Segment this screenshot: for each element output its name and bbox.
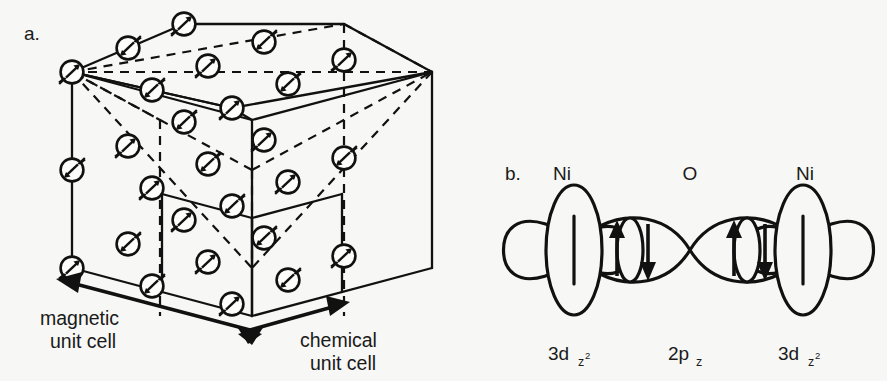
electron-pair-left xyxy=(609,218,656,282)
chemical-label-line1: chemical xyxy=(300,329,377,351)
magnetic-label-line2: unit cell xyxy=(50,330,116,352)
spin-marker-down xyxy=(221,194,245,217)
spin-marker-down xyxy=(197,152,221,175)
chemical-unit-cell-label: chemical unit cell xyxy=(300,329,377,374)
atom-label-o: O xyxy=(683,163,698,184)
spin-marker-up xyxy=(115,135,139,158)
orbital-label-right-main: 3d xyxy=(778,343,799,364)
orbital-label-left-sub: z xyxy=(578,355,584,369)
figure-root: a. xyxy=(0,0,887,381)
spin-marker-up xyxy=(275,171,299,194)
panel-a-letter: a. xyxy=(24,23,40,44)
spin-marker-up xyxy=(139,177,163,200)
spin-marker-down xyxy=(333,146,357,169)
orbital-label-right-sub: z xyxy=(808,355,814,369)
spin-marker-up xyxy=(195,251,219,274)
spin-marker-up xyxy=(171,13,195,36)
spin-marker-up xyxy=(331,245,355,268)
spin-marker-down xyxy=(61,158,85,181)
spin-marker-down xyxy=(117,232,141,255)
chemical-label-line2: unit cell xyxy=(310,352,376,374)
spin-marker-down xyxy=(253,30,277,53)
spin-marker-up xyxy=(331,49,355,72)
orbital-label-right-sub2: 2 xyxy=(815,350,820,361)
electron-pair-right xyxy=(726,218,773,282)
spin-marker-down xyxy=(141,78,165,101)
orbital-label-center-main: 2p xyxy=(668,343,689,364)
orbital-label-left-main: 3d xyxy=(548,343,569,364)
magnetic-unit-cell-label: magnetic unit cell xyxy=(40,307,119,352)
orbital-label-center-sub: z xyxy=(696,355,702,369)
atom-label-ni-right: Ni xyxy=(796,163,814,184)
atom-label-ni-left: Ni xyxy=(553,163,571,184)
spin-marker-down xyxy=(277,72,301,95)
panel-b-letter: b. xyxy=(505,163,521,184)
spin-marker-up xyxy=(219,293,243,316)
spin-marker-down xyxy=(277,268,301,291)
spin-marker-up xyxy=(219,97,243,120)
spin-marker-up xyxy=(171,209,195,232)
spin-marker-up xyxy=(59,61,83,84)
orbital-label-left-sub2: 2 xyxy=(585,350,590,361)
magnetic-label-line1: magnetic xyxy=(40,307,119,329)
spin-marker-down xyxy=(141,274,165,297)
spin-marker-down xyxy=(253,226,277,249)
figure-canvas: a. xyxy=(0,0,887,381)
spin-marker-down xyxy=(117,36,141,59)
spin-marker-down xyxy=(173,110,197,133)
spin-marker-up xyxy=(195,55,219,78)
spin-marker-up xyxy=(251,129,275,152)
